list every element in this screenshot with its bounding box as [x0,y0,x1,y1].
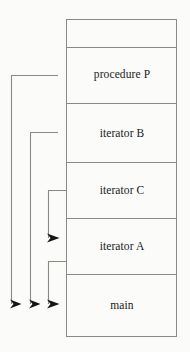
arrow-iterator-b-to-main [29,133,58,309]
stack-frame-label-procedure-p: procedure P [67,68,177,80]
arrow-iterator-c-to-iterator-a [47,191,66,243]
stack-frame-label-main: main [67,299,177,311]
stack-frame-label-iterator-a: iterator A [67,240,177,252]
arrow-iterator-a-to-main [47,262,66,309]
stack-frame-label-iterator-b: iterator B [67,127,177,139]
stack-frame-label-iterator-c: iterator C [67,184,177,196]
call-stack-diagram: procedure P iterator B iterator C iterat… [0,0,190,352]
arrow-procedure-p-to-main [10,76,58,309]
